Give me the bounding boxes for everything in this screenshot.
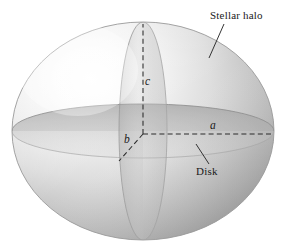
- galaxy-diagram-canvas: [0, 0, 287, 247]
- halo-specular-highlight: [18, 24, 138, 116]
- axis-c-label: c: [145, 76, 150, 88]
- axis-b-label: b: [124, 134, 130, 146]
- stellar-halo-label: Stellar halo: [210, 10, 263, 21]
- axis-a-label: a: [210, 120, 216, 132]
- galaxy-structure-figure: Stellar halo Disk a b c: [0, 0, 287, 247]
- disk-label: Disk: [196, 166, 218, 177]
